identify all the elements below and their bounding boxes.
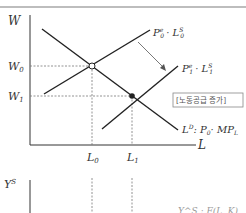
demand-label: LD: P0· MPL xyxy=(181,123,238,136)
equilibrium-initial-point xyxy=(89,63,95,69)
x-axis-label-l: L xyxy=(197,138,206,152)
equilibrium-new-point xyxy=(129,93,135,99)
demand-curve xyxy=(42,29,178,130)
label-l1: L1 xyxy=(126,151,139,165)
supply-curve-shifted xyxy=(102,66,178,129)
shift-arrow-icon xyxy=(138,42,166,71)
label-l0: L0 xyxy=(86,151,99,165)
label-w1: W1 xyxy=(8,90,24,104)
labor-supply-increase-box: [노동공급 증가] xyxy=(173,93,243,107)
supply-initial-label: Pe0· LS0 xyxy=(152,26,184,39)
y-axis-label-ys: YS xyxy=(4,178,16,191)
production-function-label-partial: Y^S : F(L, K) xyxy=(178,206,239,213)
svg-text:[노동공급 증가]: [노동공급 증가] xyxy=(176,96,226,105)
label-w0: W0 xyxy=(8,60,24,74)
y-axis-label-w: W xyxy=(8,14,22,28)
supply-shifted-label: Pe1· LS1 xyxy=(181,62,213,75)
supply-curve-initial xyxy=(44,30,150,94)
labor-market-diagram: W W0 W1 L L0 L1 Pe0· LS0 Pe1· LS1 [노동공급 … xyxy=(0,0,246,213)
dashed-guides xyxy=(30,66,132,213)
